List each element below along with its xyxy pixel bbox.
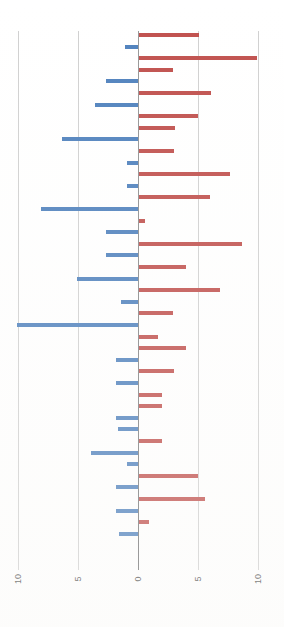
bar-31: [116, 381, 138, 385]
gridline-5: [198, 31, 199, 570]
bar-44: [119, 532, 138, 536]
x-tick-label-10-4: 10: [253, 567, 263, 591]
x-tick-label-0-2: 0: [133, 567, 143, 591]
bar-17: [138, 219, 145, 223]
x-axis-tick-labels: 1050510: [0, 570, 284, 627]
bar-41: [138, 497, 205, 501]
bar-25: [138, 311, 173, 315]
bar-11: [138, 149, 174, 153]
bar-5: [106, 79, 138, 83]
bar-6: [138, 91, 211, 95]
bar-29: [116, 358, 138, 362]
bar-20: [106, 253, 138, 257]
bar-4: [138, 68, 173, 72]
bar-34: [116, 416, 138, 420]
bar-33: [138, 404, 162, 408]
bar-18: [106, 230, 138, 234]
x-tick-label-10-0: 10: [13, 567, 23, 591]
bar-8: [138, 114, 198, 118]
bar-26: [17, 323, 138, 327]
gridline-10: [18, 31, 19, 570]
x-tick-label-5-1: 5: [73, 567, 83, 591]
bar-chart: 1050510: [0, 0, 284, 627]
gridline-10: [258, 31, 259, 570]
bar-23: [138, 288, 220, 292]
bar-1: [138, 33, 199, 37]
bar-38: [127, 462, 138, 466]
bar-35: [118, 427, 138, 431]
bar-22: [77, 277, 138, 281]
bar-40: [116, 485, 138, 489]
bar-28: [138, 346, 186, 350]
bar-9: [138, 126, 175, 130]
gridline-5: [78, 31, 79, 570]
bar-21: [138, 265, 186, 269]
zero-axis-line: [138, 31, 139, 570]
bar-32: [138, 393, 162, 397]
plot-area: [0, 0, 284, 570]
bar-36: [138, 439, 162, 443]
bar-7: [95, 103, 138, 107]
bar-16: [41, 207, 138, 211]
bar-10: [62, 137, 138, 141]
bar-13: [138, 172, 230, 176]
bar-2: [125, 45, 138, 49]
bar-3: [138, 56, 257, 60]
bar-15: [138, 195, 210, 199]
bar-19: [138, 242, 242, 246]
bar-24: [121, 300, 138, 304]
bar-14: [127, 184, 138, 188]
bar-43: [138, 520, 149, 524]
bar-42: [116, 509, 138, 513]
bar-37: [91, 451, 138, 455]
bar-12: [127, 161, 138, 165]
x-tick-label-5-3: 5: [193, 567, 203, 591]
bar-27: [138, 335, 158, 339]
bar-39: [138, 474, 198, 478]
bar-30: [138, 369, 174, 373]
